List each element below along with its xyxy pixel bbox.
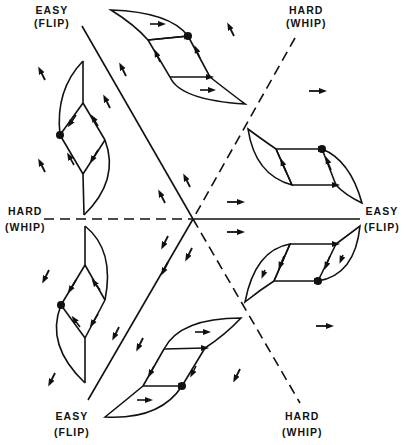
- loop-bottom: [105, 318, 241, 417]
- easy-axis-top-left: [82, 26, 193, 219]
- loop-top: [111, 10, 245, 104]
- field-arrow-icon: [44, 270, 49, 280]
- field-arrow-icon: [185, 177, 190, 187]
- field-arrow-icon: [163, 236, 168, 246]
- loop-upper-right-dot: [318, 145, 326, 153]
- loop-upper-right: [248, 129, 362, 203]
- hard-axis-bottom-right: [193, 219, 300, 403]
- loop-lower-left-dot: [57, 301, 65, 309]
- hard-axis-top-right: [193, 38, 295, 219]
- loop-upper-left: [59, 61, 109, 215]
- field-arrow-icon: [235, 369, 240, 379]
- field-arrow-icon: [40, 162, 45, 172]
- loop-bottom-dot: [178, 382, 186, 390]
- loop-lower-right-dot: [314, 277, 322, 285]
- loop-upper-left-dot: [56, 131, 64, 139]
- field-arrow-icon: [40, 70, 45, 80]
- field-arrow-icon: [105, 98, 110, 108]
- label-easy-flip-bottom-left: EASY (FLIP): [54, 410, 90, 439]
- field-arrow-icon: [50, 373, 55, 383]
- field-arrow-icon: [114, 327, 119, 337]
- label-hard-whip-top-right: HARD (WHIP): [286, 4, 326, 30]
- label-easy-flip-right: EASY (FLIP): [364, 205, 400, 234]
- field-arrow-icon: [121, 66, 126, 76]
- label-hard-whip-bottom-right: HARD (WHIP): [282, 410, 322, 439]
- hysteresis-astroid-diagram: EASY (FLIP) HARD (WHIP) HARD (WHIP) EASY…: [0, 0, 412, 445]
- field-arrow-icon: [160, 193, 165, 203]
- field-arrow-icon: [187, 248, 192, 258]
- label-easy-flip-top-left: EASY (FLIP): [34, 4, 70, 30]
- loop-lower-right: [245, 226, 360, 302]
- field-arrow-icon: [229, 26, 234, 36]
- diagram-canvas: [0, 0, 412, 445]
- field-arrow-icon: [138, 338, 143, 348]
- easy-axis-bottom-left: [88, 219, 193, 400]
- label-hard-whip-left: HARD (WHIP): [5, 205, 45, 234]
- field-arrow-icon: [163, 262, 168, 272]
- axes: [44, 26, 360, 403]
- loop-top-dot: [184, 32, 192, 40]
